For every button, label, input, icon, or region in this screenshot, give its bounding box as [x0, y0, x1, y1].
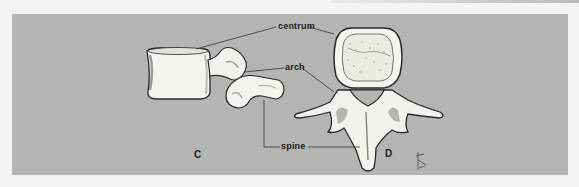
label-arch: arch	[285, 63, 305, 72]
superior-vertebra-drawing	[295, 28, 443, 171]
label-spine: spine	[281, 142, 306, 151]
leader-centrum-c	[196, 27, 276, 49]
leader-spine-c	[264, 100, 280, 147]
artist-monogram-icon	[416, 152, 426, 170]
label-centrum: centrum	[278, 22, 315, 31]
leader-arch-c	[244, 68, 284, 72]
leader-arch-d	[302, 68, 334, 92]
view-label-d: D	[385, 149, 392, 159]
view-label-c: C	[194, 150, 201, 160]
lateral-vertebra-drawing	[147, 48, 284, 109]
